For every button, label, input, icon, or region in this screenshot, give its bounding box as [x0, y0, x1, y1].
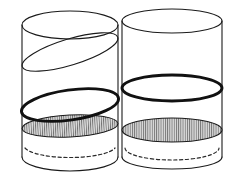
figure-canvas: [0, 0, 240, 184]
two-cylinders-diagram: [0, 0, 240, 184]
right-cylinder-hatched-section-disc: [122, 118, 222, 142]
